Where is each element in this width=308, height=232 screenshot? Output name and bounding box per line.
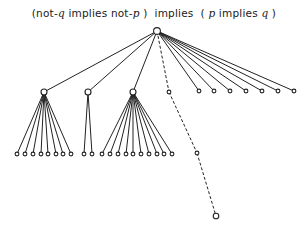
dashed-path-node	[213, 213, 219, 219]
dashed-path-node	[195, 151, 199, 155]
leaf-node	[197, 89, 201, 93]
hub-node	[41, 89, 47, 95]
leaf-node	[260, 89, 264, 93]
edge	[88, 92, 92, 154]
leaf-node	[244, 89, 248, 93]
edge	[157, 31, 230, 91]
leaf-node	[292, 89, 296, 93]
edge	[84, 92, 88, 154]
leaf-node	[69, 152, 73, 156]
leaf-node	[108, 152, 112, 156]
edge	[44, 92, 63, 154]
edge	[44, 31, 157, 92]
edge	[133, 92, 164, 154]
leaf-node	[212, 89, 216, 93]
edge	[157, 31, 278, 91]
edge	[133, 92, 149, 154]
leaf-node	[147, 152, 151, 156]
leaf-node	[100, 152, 104, 156]
edge	[157, 31, 214, 91]
leaf-node	[155, 152, 159, 156]
edge	[102, 92, 133, 154]
leaf-node	[90, 152, 94, 156]
root-node	[154, 28, 161, 35]
leaf-node	[162, 152, 166, 156]
edge	[157, 31, 262, 91]
leaf-node	[131, 152, 135, 156]
leaf-node	[31, 152, 35, 156]
leaf-node	[54, 152, 58, 156]
leaf-node	[61, 152, 65, 156]
hub-node	[85, 89, 91, 95]
leaf-node	[82, 152, 86, 156]
leaf-node	[23, 152, 27, 156]
leaf-node	[116, 152, 120, 156]
edge	[157, 31, 246, 91]
leaf-node	[46, 152, 50, 156]
edge	[44, 92, 71, 154]
proof-tree	[0, 0, 308, 232]
leaf-node	[139, 152, 143, 156]
leaf-node	[170, 152, 174, 156]
edge	[88, 31, 157, 92]
dashed-edge	[197, 153, 216, 216]
edge	[133, 92, 172, 154]
dashed-path-node	[167, 90, 171, 94]
leaf-node	[39, 152, 43, 156]
leaf-node	[276, 89, 280, 93]
edge	[118, 92, 133, 154]
leaf-node	[228, 89, 232, 93]
hub-node	[130, 89, 136, 95]
edge	[133, 31, 157, 92]
dashed-edge	[169, 92, 197, 153]
edge	[17, 92, 44, 154]
leaf-node	[124, 152, 128, 156]
leaf-node	[15, 152, 19, 156]
